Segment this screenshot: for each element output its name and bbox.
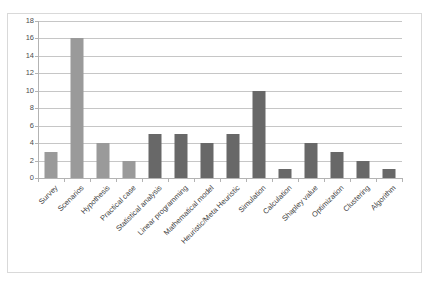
- bar-slot: [90, 21, 116, 178]
- bar[interactable]: [45, 152, 58, 178]
- x-axis-category-label-text: Algorithm: [370, 184, 398, 212]
- bar-slot: [376, 21, 402, 178]
- y-axis-tick-label: 8: [10, 104, 34, 112]
- y-axis-tick-label: 2: [10, 157, 34, 165]
- bar-slot: [38, 21, 64, 178]
- chart-frame: 024681012141618 SurveyScenariosHypothesi…: [7, 13, 422, 273]
- y-axis-tick-label: 16: [10, 35, 34, 43]
- y-axis-tick-labels: 024681012141618: [8, 21, 34, 178]
- y-axis-tick-label: 4: [10, 139, 34, 147]
- y-axis-tick-label: 18: [10, 17, 34, 25]
- x-axis-category-label-text: Survey: [37, 184, 59, 206]
- y-axis-tick-label: 10: [10, 87, 34, 95]
- chart-plot-wrapper: 024681012141618 SurveyScenariosHypothesi…: [8, 14, 423, 274]
- y-axis-tick-label: 0: [10, 174, 34, 182]
- y-axis-tick-label: 14: [10, 52, 34, 60]
- y-axis-tick-label: 6: [10, 122, 34, 130]
- bar[interactable]: [71, 38, 84, 178]
- x-axis-category-label-text: Clustering: [342, 184, 371, 213]
- x-axis-category-labels: SurveyScenariosHypothesisPractical caseS…: [38, 184, 402, 270]
- bar-slot: [298, 21, 324, 178]
- bar-slot: [116, 21, 142, 178]
- x-axis-tick-mark: [38, 178, 39, 182]
- bar-slot: [64, 21, 90, 178]
- bar-slot: [350, 21, 376, 178]
- y-axis-tick-label: 12: [10, 70, 34, 78]
